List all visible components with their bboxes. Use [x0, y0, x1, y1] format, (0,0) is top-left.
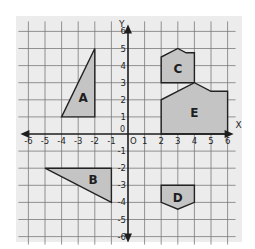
x-tick-label: 1: [142, 136, 147, 146]
x-tick-label: 6: [225, 136, 230, 146]
coordinate-plane: ABCDE XYO0-6-5-4-3-2-1123456654321-1-2-3…: [0, 0, 255, 249]
x-tick-label: 3: [175, 136, 180, 146]
shape-label: E: [190, 106, 198, 120]
y-tick-label: 5: [121, 44, 126, 54]
y-tick-label: -1: [118, 146, 126, 156]
x-tick-label: 2: [158, 136, 163, 146]
origin-label: O: [130, 136, 137, 146]
y-tick-label: -5: [118, 215, 126, 225]
y-tick-label: -6: [118, 232, 126, 242]
x-tick-label: -5: [41, 136, 49, 146]
shape-label: D: [173, 191, 183, 205]
x-tick-label: -3: [74, 136, 82, 146]
x-tick-label: -6: [24, 136, 32, 146]
y-tick-label: 6: [121, 26, 126, 36]
y-tick-label: 2: [121, 95, 126, 105]
y-tick-label: -3: [118, 180, 126, 190]
x-tick-label: 4: [192, 136, 197, 146]
y-tick-label: 1: [121, 112, 126, 122]
x-axis-label: X: [236, 120, 242, 130]
x-tick-label: -1: [107, 136, 115, 146]
y-tick-zero: 0: [120, 125, 125, 134]
y-tick-label: 3: [121, 78, 126, 88]
y-tick-label: -4: [118, 197, 126, 207]
x-tick-label: 5: [208, 136, 213, 146]
x-tick-label: -4: [57, 136, 65, 146]
shape-label: A: [79, 91, 89, 105]
y-tick-label: 4: [121, 61, 126, 71]
shape-label: B: [89, 173, 98, 187]
y-tick-label: -2: [118, 163, 126, 173]
x-tick-label: -2: [91, 136, 99, 146]
shape-label: C: [173, 62, 182, 76]
